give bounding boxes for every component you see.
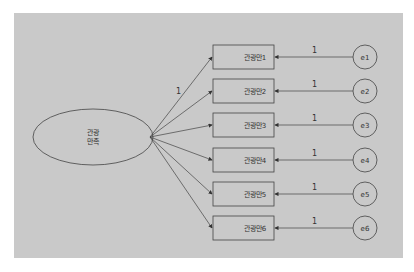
indicator-row: 관광만51e5 xyxy=(150,137,377,206)
error-term-label: e3 xyxy=(361,122,370,130)
loading-arrow xyxy=(150,137,212,228)
error-path-label: 1 xyxy=(312,183,317,192)
observed-variable-label: 관광만5 xyxy=(244,190,266,199)
error-path-label: 1 xyxy=(312,217,317,226)
latent-label-line2: 만족 xyxy=(87,137,100,146)
loading-fixed-label: 1 xyxy=(176,87,181,96)
indicator-row: 관광만31e3 xyxy=(150,113,377,137)
loading-arrow xyxy=(150,57,212,137)
error-path-label: 1 xyxy=(312,80,317,89)
latent-variable: 관광 만족 xyxy=(33,109,153,165)
indicator-row: 관광만61e6 xyxy=(150,137,377,240)
observed-variable-label: 관광만6 xyxy=(244,224,267,233)
error-term-label: e2 xyxy=(361,88,370,96)
loading-arrow xyxy=(150,137,212,160)
observed-variable-label: 관광만1 xyxy=(244,53,266,62)
error-term-label: e6 xyxy=(361,225,370,233)
loading-arrow xyxy=(150,137,212,194)
error-path-label: 1 xyxy=(312,149,317,158)
sem-diagram: 관광 만족 1 관광만11e1관광만21e2관광만31e3관광만41e4관광만5… xyxy=(0,0,414,272)
error-path-label: 1 xyxy=(312,46,317,55)
observed-variable-label: 관광만3 xyxy=(244,121,266,130)
observed-variable-label: 관광만2 xyxy=(244,87,266,96)
error-term-label: e5 xyxy=(361,191,370,199)
indicator-row: 관광만41e4 xyxy=(150,137,377,172)
latent-label-line1: 관광 xyxy=(87,128,100,137)
observed-variable-label: 관광만4 xyxy=(244,156,267,165)
error-term-label: e4 xyxy=(361,157,370,165)
error-path-label: 1 xyxy=(312,114,317,123)
loading-arrow xyxy=(150,125,212,137)
loading-arrow xyxy=(150,91,212,137)
error-term-label: e1 xyxy=(361,54,370,62)
